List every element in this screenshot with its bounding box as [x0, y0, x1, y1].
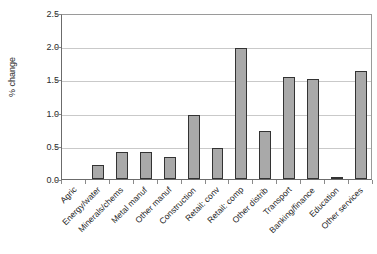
gridline — [62, 115, 371, 116]
y-tick-label: 1.0 — [9, 109, 59, 119]
y-tick-label: 2.0 — [9, 42, 59, 52]
bar — [307, 79, 319, 179]
bar — [116, 152, 128, 179]
bar — [140, 152, 152, 179]
y-tick-label: 0.5 — [9, 142, 59, 152]
bar — [164, 157, 176, 179]
bar — [212, 148, 224, 179]
gridline — [62, 48, 371, 49]
bar — [235, 48, 247, 179]
bar-chart: % change 0.00.51.01.52.02.5 AgricEnergy/… — [0, 0, 377, 254]
y-tick-label: 2.5 — [9, 9, 59, 19]
plot-area — [61, 14, 372, 180]
bar — [331, 177, 343, 179]
bar — [259, 131, 271, 179]
bar — [355, 71, 367, 179]
bar — [92, 165, 104, 179]
bar — [188, 115, 200, 179]
x-axis-labels: AgricEnergy/waterMinerals/chemsMetal man… — [0, 180, 377, 254]
x-tick-label: Agric — [58, 185, 79, 206]
gridline — [62, 81, 371, 82]
y-tick-label: 1.5 — [9, 75, 59, 85]
bar — [283, 77, 295, 179]
